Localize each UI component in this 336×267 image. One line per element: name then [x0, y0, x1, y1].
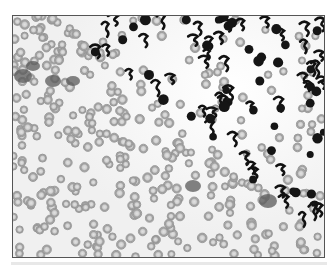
micrograph-frame: Grayscale micrograph of a peripheral blo…	[12, 15, 325, 258]
bottom-divider	[11, 262, 327, 265]
blood-smear-image	[13, 16, 324, 257]
